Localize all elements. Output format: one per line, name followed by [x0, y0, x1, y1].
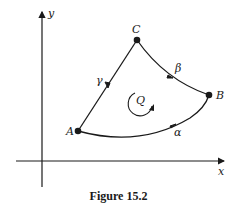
x-axis-label: x [218, 165, 225, 178]
curve-beta [137, 40, 209, 95]
point-a [75, 128, 82, 135]
point-b-label: B [215, 89, 224, 102]
orientation-arrow-icon [149, 104, 154, 111]
point-b [206, 92, 213, 99]
curve-gamma-label: γ [96, 74, 103, 87]
figure-canvas: y x α β γ Q A B C [0, 0, 237, 212]
y-axis-label: y [47, 7, 55, 20]
point-c [134, 37, 141, 44]
curve-alpha-label: α [174, 126, 182, 139]
curve-beta-label: β [174, 62, 181, 75]
point-c-label: C [132, 23, 141, 36]
region-label: Q [136, 94, 145, 107]
point-a-label: A [65, 125, 74, 138]
figure-caption: Figure 15.2 [0, 189, 237, 204]
